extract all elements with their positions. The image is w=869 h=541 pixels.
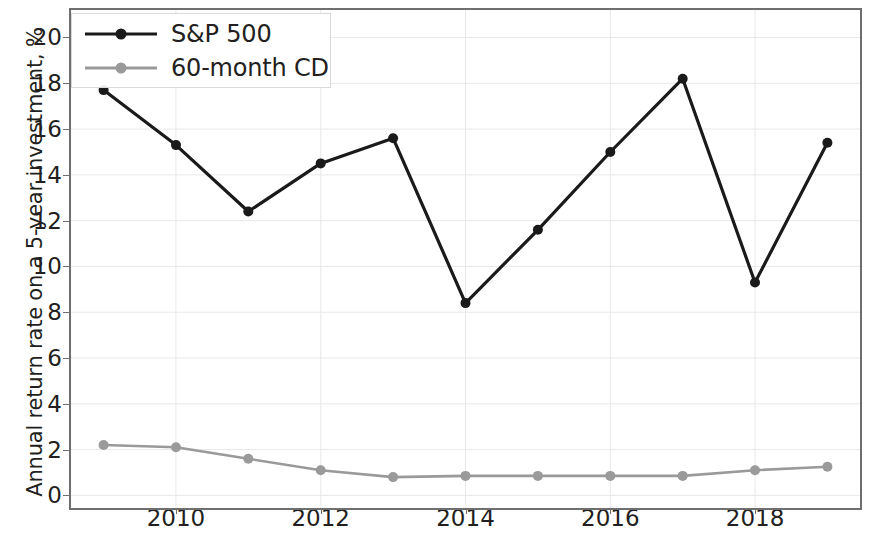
x-tick-mark [321, 508, 322, 514]
y-tick-mark [63, 404, 69, 405]
chart-legend: S&P 500 60-month CD [71, 13, 331, 88]
y-tick-mark [63, 37, 69, 38]
data-point [316, 158, 326, 168]
y-tick-label: 2 [16, 437, 62, 463]
data-point [822, 462, 832, 472]
data-point [750, 465, 760, 475]
data-point [533, 225, 543, 235]
y-tick-label: 10 [16, 253, 62, 279]
x-tick-mark [176, 508, 177, 514]
data-point [605, 471, 615, 481]
legend-item-cd[interactable]: 60-month CD [72, 51, 330, 85]
legend-label-sp500: S&P 500 [171, 20, 271, 48]
y-tick-label: 12 [16, 208, 62, 234]
data-point [605, 147, 615, 157]
legend-label-cd: 60-month CD [171, 54, 329, 82]
x-tick-mark [466, 508, 467, 514]
y-tick-mark [63, 129, 69, 130]
y-tick-label: 8 [16, 299, 62, 325]
data-point [99, 440, 109, 450]
x-tick-mark [755, 508, 756, 514]
y-tick-mark [63, 266, 69, 267]
data-point [171, 140, 181, 150]
y-tick-label: 16 [16, 116, 62, 142]
legend-item-sp500[interactable]: S&P 500 [72, 17, 330, 51]
data-point [678, 471, 688, 481]
y-tick-mark [63, 358, 69, 359]
data-point [678, 74, 688, 84]
y-tick-mark [63, 495, 69, 496]
data-point [461, 471, 471, 481]
data-point [388, 133, 398, 143]
data-point [171, 442, 181, 452]
y-tick-mark [63, 83, 69, 84]
y-tick-mark [63, 312, 69, 313]
x-tick-mark [610, 508, 611, 514]
data-point [316, 465, 326, 475]
y-tick-mark [63, 175, 69, 176]
data-point [461, 298, 471, 308]
y-tick-mark [63, 450, 69, 451]
y-tick-label: 20 [16, 24, 62, 50]
y-tick-mark [63, 221, 69, 222]
data-point [750, 278, 760, 288]
data-point [388, 472, 398, 482]
y-axis-tick-labels: 02468101214161820 [12, 0, 62, 541]
legend-line-marker-icon [85, 23, 157, 45]
y-tick-label: 18 [16, 70, 62, 96]
data-point [243, 207, 253, 217]
legend-line-marker-icon [85, 57, 157, 79]
chart-root: Annual return rate on a 5-year investmen… [0, 0, 869, 541]
y-tick-label: 6 [16, 345, 62, 371]
data-point [533, 471, 543, 481]
data-point [822, 138, 832, 148]
data-point [243, 454, 253, 464]
y-tick-label: 14 [16, 162, 62, 188]
y-tick-label: 4 [16, 391, 62, 417]
y-tick-label: 0 [16, 482, 62, 508]
